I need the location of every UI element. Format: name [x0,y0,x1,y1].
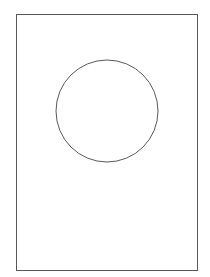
diagram-svg [0,0,210,277]
page-rectangle [17,15,198,271]
circle-shape [56,60,158,162]
diagram-canvas [0,0,210,277]
